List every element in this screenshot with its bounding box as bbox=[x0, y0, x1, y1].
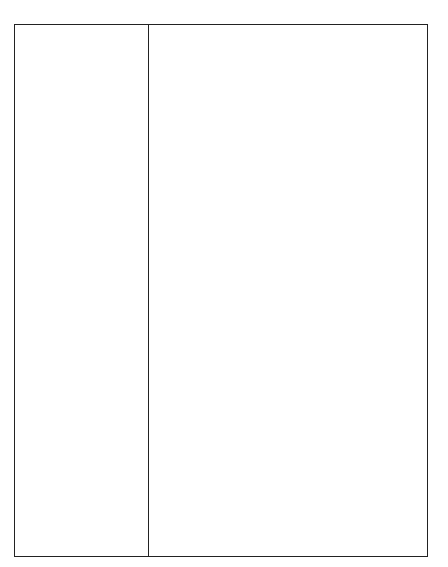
bar-chart bbox=[0, 0, 448, 567]
bar-rows bbox=[0, 0, 448, 567]
